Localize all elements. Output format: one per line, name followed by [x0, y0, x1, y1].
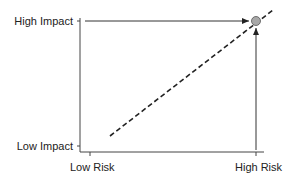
label-high-impact: High Impact — [14, 15, 73, 27]
label-high-risk: High Risk — [235, 161, 283, 173]
label-low-risk: Low Risk — [70, 161, 115, 173]
risk-impact-diagram: High Impact Low Impact Low Risk High Ris… — [0, 0, 289, 180]
high-risk-high-impact-point — [252, 17, 261, 26]
label-low-impact: Low Impact — [17, 140, 73, 152]
trend-line — [110, 10, 273, 136]
